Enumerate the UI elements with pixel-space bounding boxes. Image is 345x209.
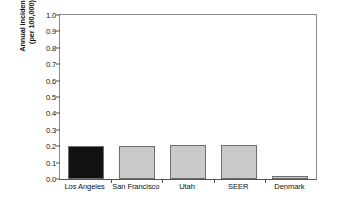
bar-san-francisco xyxy=(119,146,155,179)
y-axis-title-line-2: (per 100,000) xyxy=(27,0,37,44)
y-tick-label: 0.4 xyxy=(34,109,56,118)
bar-chart-figure: Annual incidence (per 100,000) 0.00.10.2… xyxy=(0,0,345,209)
y-tick-label: 0.5 xyxy=(34,93,56,102)
y-tick-label: 0.7 xyxy=(34,60,56,69)
plot-area: 0.00.10.20.30.40.50.60.70.80.91.0 xyxy=(59,14,317,180)
x-axis-labels: Los AngelesSan FranciscoUtahSEERDenmark xyxy=(59,182,317,198)
y-tick-label: 0.1 xyxy=(34,158,56,167)
bar-utah xyxy=(170,145,206,179)
bar-los-angeles xyxy=(68,146,104,179)
bar-seer xyxy=(221,145,257,179)
y-tick-label: 0.2 xyxy=(34,142,56,151)
x-tick-label: San Francisco xyxy=(112,182,159,191)
y-axis-title-line-1: Annual incidence xyxy=(18,0,28,52)
y-tick-label: 0.0 xyxy=(34,175,56,184)
x-tick-label: Denmark xyxy=(274,182,304,191)
x-tick-label: Los Angeles xyxy=(64,182,104,191)
x-tick-label: SEER xyxy=(228,182,248,191)
y-tick-label: 0.9 xyxy=(34,27,56,36)
bar-series xyxy=(60,15,316,179)
y-tick-label: 1.0 xyxy=(34,11,56,20)
bar-denmark xyxy=(272,176,308,179)
y-tick-label: 0.6 xyxy=(34,76,56,85)
y-tick-label: 0.3 xyxy=(34,125,56,134)
x-tick-label: Utah xyxy=(179,182,195,191)
y-tick-label: 0.8 xyxy=(34,43,56,52)
